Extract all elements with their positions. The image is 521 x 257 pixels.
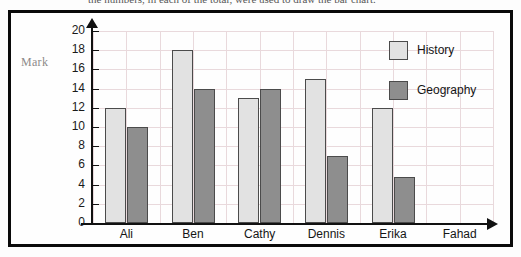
y-axis-tick-mark	[93, 146, 99, 147]
y-axis-tick-mark	[93, 165, 99, 166]
legend-swatch-geography	[389, 81, 408, 100]
y-axis-tick-label: 18	[59, 42, 85, 56]
legend-label-geography: Geography	[417, 83, 476, 97]
y-axis-tick-mark	[93, 185, 99, 186]
bar-erika-history	[372, 108, 393, 223]
y-axis-tick-mark	[93, 108, 99, 109]
y-axis-tick-mark	[93, 89, 99, 90]
y-axis-tick-mark	[93, 69, 99, 70]
x-axis-label-ali: Ali	[93, 227, 160, 241]
x-axis-label-dennis: Dennis	[293, 227, 360, 241]
legend-swatch-history	[389, 41, 408, 60]
legend-item-history: History	[389, 39, 454, 61]
x-axis-label-fahad: Fahad	[426, 227, 493, 241]
bar-chart-screenshot: the numbers, in each of the total, were …	[0, 0, 521, 257]
y-axis-tick-label: 0	[59, 215, 85, 229]
grid-line-vertical	[493, 31, 494, 223]
clipped-caption-strip: the numbers, in each of the total, were …	[0, 0, 521, 9]
bar-ben-geography	[194, 89, 215, 223]
y-axis-tick-label: 12	[59, 100, 85, 114]
legend-item-geography: Geography	[389, 79, 476, 101]
bar-erika-geography	[394, 177, 415, 223]
y-axis-tick-mark	[93, 204, 99, 205]
y-axis-tick-mark	[93, 223, 99, 224]
bar-ben-history	[172, 50, 193, 223]
x-axis-category-labels: AliBenCathyDennisErikaFahad	[93, 227, 493, 247]
bar-dennis-history	[305, 79, 326, 223]
y-axis-tick-mark	[93, 31, 99, 32]
bar-cathy-geography	[260, 89, 281, 223]
x-axis-line	[81, 223, 489, 225]
y-axis-tick-label: 8	[59, 138, 85, 152]
y-axis-tick-mark	[93, 50, 99, 51]
bar-cathy-history	[238, 98, 259, 223]
y-axis-tick-label: 20	[59, 23, 85, 37]
y-axis-tick-mark	[93, 127, 99, 128]
y-axis-tick-labels: 20181614121086420	[55, 13, 85, 244]
bar-ali-geography	[127, 127, 148, 223]
y-axis-tick-label: 4	[59, 177, 85, 191]
bar-dennis-geography	[327, 156, 348, 223]
bar-ali-history	[105, 108, 126, 223]
caption-text: the numbers, in each of the total, were …	[88, 0, 508, 5]
y-axis-arrow-icon	[86, 18, 98, 28]
plot-area: Mark 20181614121086420 AliBenCathyDennis…	[11, 13, 510, 244]
y-axis-title: Mark	[21, 55, 48, 70]
x-axis-label-cathy: Cathy	[226, 227, 293, 241]
chart-frame: Mark 20181614121086420 AliBenCathyDennis…	[8, 10, 513, 247]
y-axis-tick-label: 10	[59, 119, 85, 133]
y-axis-tick-label: 14	[59, 81, 85, 95]
y-axis-tick-label: 2	[59, 196, 85, 210]
legend-label-history: History	[417, 43, 454, 57]
chart-legend: HistoryGeography	[389, 39, 493, 101]
x-axis-label-ben: Ben	[160, 227, 227, 241]
y-axis-tick-label: 6	[59, 157, 85, 171]
y-axis-tick-label: 16	[59, 61, 85, 75]
x-axis-label-erika: Erika	[360, 227, 427, 241]
